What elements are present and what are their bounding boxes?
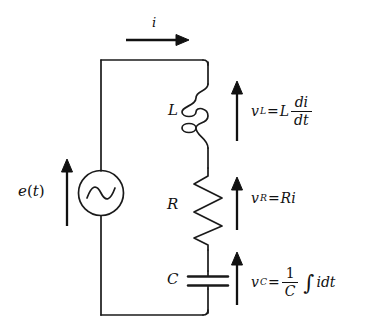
inductor-coil-symbol <box>182 84 208 148</box>
resistor-label: R <box>167 197 178 212</box>
resistor-eq-lhs-var: v <box>251 191 259 205</box>
inductor-eq-fraction: di dt <box>291 95 312 127</box>
capacitor-eq-lhs-sub: C <box>260 277 267 286</box>
current-arrow <box>126 35 189 46</box>
inductor-eq-denominator: dt <box>291 112 312 128</box>
inductor-eq-numerator: di <box>291 95 312 112</box>
inductor-eq-lhs-var: v <box>251 104 259 118</box>
capacitor-equation: vC = 1 C ∫ idt <box>251 266 335 298</box>
resistor-equation: vR = Ri <box>251 191 296 205</box>
resistor-voltage-arrow <box>232 177 243 230</box>
circuit-diagram-canvas: i e(t) L R C vL = L di dt vR = Ri vC = <box>0 0 375 332</box>
inductor-voltage-arrow <box>232 81 243 141</box>
capacitor-eq-equals: = <box>268 275 280 289</box>
source-voltage-arrow <box>62 159 73 226</box>
capacitor-voltage-arrow <box>232 252 243 305</box>
resistor-zigzag-symbol <box>194 168 222 250</box>
corner-top-right <box>203 60 208 65</box>
capacitor-eq-fraction: 1 C <box>282 266 299 298</box>
resistor-eq-lhs-sub: R <box>260 193 267 202</box>
inductor-equation: vL = L di dt <box>251 95 313 127</box>
capacitor-eq-lhs-var: v <box>251 275 259 289</box>
source-label-main: e <box>18 182 27 200</box>
corner-bottom-right <box>203 310 208 315</box>
inductor-label: L <box>168 103 178 118</box>
ac-source-sine-icon <box>87 187 115 199</box>
capacitor-eq-integrand: idt <box>316 275 335 289</box>
current-label: i <box>152 16 156 29</box>
inductor-eq-equals: = <box>267 104 279 118</box>
source-label-paren-close: ) <box>39 182 45 200</box>
resistor-eq-rhs: Ri <box>281 191 296 205</box>
capacitor-label: C <box>167 272 178 287</box>
capacitor-eq-numerator: 1 <box>282 266 299 283</box>
inductor-eq-lhs-sub: L <box>260 106 266 115</box>
capacitor-eq-denominator: C <box>282 283 299 299</box>
capacitor-eq-integral-symbol: ∫ <box>300 276 315 291</box>
inductor-eq-coefficient: L <box>280 104 289 118</box>
source-label: e(t) <box>18 184 45 199</box>
resistor-eq-equals: = <box>268 191 280 205</box>
